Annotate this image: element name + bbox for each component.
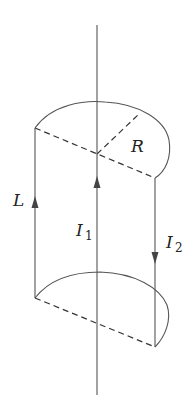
current-i2-label: I bbox=[165, 232, 173, 252]
length-label: L bbox=[12, 190, 24, 210]
bottom-arc bbox=[35, 272, 169, 347]
current-i1-label: I bbox=[75, 220, 83, 240]
current-i1-arrow-icon bbox=[94, 176, 101, 188]
current-i2-subscript: 2 bbox=[175, 241, 183, 255]
top-arc bbox=[35, 102, 170, 178]
current-i1-subscript: 1 bbox=[85, 229, 93, 243]
left-up-arrow-icon bbox=[32, 196, 39, 208]
current-i2-arrow-icon bbox=[152, 252, 159, 264]
bottom-diameter bbox=[35, 298, 155, 347]
cylinder-diagram: R L I 1 I 2 bbox=[0, 0, 190, 405]
radius-label: R bbox=[130, 136, 144, 156]
